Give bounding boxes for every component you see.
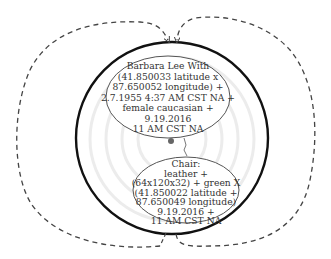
- person-line-3: 87.650052 longitude) +: [113, 81, 224, 92]
- diagram-canvas: Barbara Lee With (41.850033 latitude x 8…: [0, 0, 331, 259]
- person-line-1: Barbara Lee With: [127, 60, 210, 71]
- chair-node: Chair: leather + (64x120x32) + green X (…: [132, 157, 241, 226]
- person-line-7: 11 AM CST NA: [133, 123, 204, 134]
- person-line-6: 9.19.2016: [145, 113, 192, 124]
- origin-dot: [168, 138, 174, 144]
- person-line-5: female caucasian +: [122, 102, 213, 113]
- chair-line-7: 11 AM CST NA: [151, 215, 222, 226]
- person-line-2: (41.850033 latitude x: [118, 71, 219, 82]
- bottom-connector: [160, 233, 166, 246]
- person-line-4: 2.7.1955 4:37 AM CST NA +: [101, 92, 235, 103]
- squiggle-connector: [184, 138, 187, 156]
